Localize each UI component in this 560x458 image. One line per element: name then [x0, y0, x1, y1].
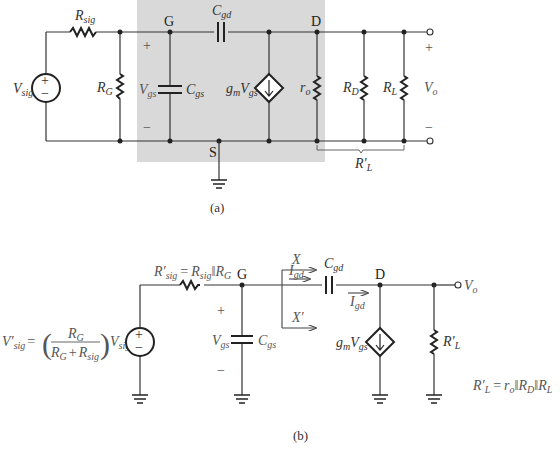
vo-label: Vo	[424, 80, 438, 97]
vgs-minus: −	[143, 120, 151, 135]
cgd-label-b: Cgd	[324, 256, 344, 273]
vsig-eq-numerator: RG	[67, 326, 84, 343]
rsig-prime-resistor-icon	[180, 281, 200, 289]
vgs-plus-b: +	[217, 303, 225, 318]
vo-label-b: Vo	[464, 278, 478, 295]
rd-label: RD	[342, 80, 360, 97]
vgs-plus: +	[143, 38, 151, 53]
rl-prime-resistor-icon	[431, 330, 437, 354]
ground-icon	[426, 395, 442, 403]
vo-minus-terminal	[427, 138, 433, 144]
vo-minus: −	[425, 120, 433, 135]
caption-a: (a)	[210, 200, 224, 215]
rg-label: RG	[96, 80, 113, 97]
ground-icon	[234, 395, 250, 403]
vsig-eq-denominator: RG+Rsig	[50, 345, 99, 362]
cgs-capacitor-icon-b	[231, 336, 253, 343]
rl-label: RL	[382, 80, 398, 97]
vsig-prime-eq-lhs: V′sig=	[2, 334, 35, 351]
rl-prime-label-a: R′L	[354, 156, 373, 173]
vo-plus-terminal	[427, 29, 433, 35]
rd-resistor-icon	[361, 76, 367, 100]
vo-plus: +	[425, 40, 433, 55]
rsig-label: Rsig	[74, 8, 95, 25]
ground-icon	[372, 395, 388, 403]
rl-resistor-icon	[401, 76, 407, 100]
gate-node-label-b: G	[237, 267, 247, 282]
rl-prime-label-b: R′L	[442, 334, 461, 351]
right-paren: )	[100, 327, 110, 361]
vgs-minus-b: −	[217, 363, 225, 378]
igd-label-2: Igd	[349, 294, 366, 311]
figure-b: V′sig= ( RG RG+Rsig ) Vsig + − R′sig=Rsi…	[2, 252, 553, 443]
svg-text:−: −	[135, 340, 143, 355]
gmvgs-label-b: gmVgs	[336, 335, 368, 352]
circuit-diagram: Rsig + − Vsig RG G Cgs Vgs + − Cgd gmVgs…	[0, 0, 560, 458]
vsig-minus: −	[41, 86, 49, 101]
ground-icon	[132, 395, 148, 403]
drain-node-label-b: D	[375, 267, 385, 282]
rl-prime-equation: R′L=ro‖RD‖RL	[472, 378, 553, 395]
source-node-label: S	[209, 145, 217, 160]
gate-node-label: G	[164, 14, 174, 29]
figure-a: Rsig + − Vsig RG G Cgs Vgs + − Cgd gmVgs…	[13, 0, 438, 215]
drain-node-label: D	[311, 14, 321, 29]
vgs-label-b: Vgs	[212, 333, 230, 350]
vsig-label: Vsig	[13, 81, 33, 98]
x-prime-label: X′	[291, 310, 305, 325]
rl-prime-bracket	[317, 145, 404, 153]
caption-b: (b)	[293, 428, 308, 443]
rsig-resistor-icon	[70, 28, 96, 36]
rsig-prime-eq: R′sig=Rsig‖RG	[153, 264, 231, 281]
cgd-capacitor-icon-b	[326, 276, 332, 294]
rg-resistor-icon	[117, 74, 123, 99]
cgs-label-b: Cgs	[258, 333, 276, 350]
ground-icon	[211, 180, 227, 188]
vo-terminal-b	[455, 282, 461, 288]
